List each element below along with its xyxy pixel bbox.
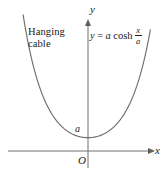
y-axis-arrowhead	[85, 19, 91, 26]
equation-equals-sign: =	[97, 30, 103, 42]
x-axis-arrowhead	[148, 148, 155, 154]
equation-lhs: y	[90, 30, 95, 42]
annotation-line-1: Hanging	[28, 26, 65, 38]
catenary-figure: Hanging cable y = a cosh x a y x O a	[0, 0, 168, 176]
annotation-line-2: cable	[28, 38, 65, 50]
equation-function-name: cosh	[113, 30, 132, 42]
fraction-denominator: a	[135, 37, 141, 46]
equation-annotation: y = a cosh x a	[90, 26, 142, 46]
origin-label: O	[78, 154, 86, 166]
equation-fraction: x a	[135, 26, 142, 46]
y-intercept-label: a	[75, 123, 80, 134]
hanging-cable-annotation: Hanging cable	[28, 26, 65, 50]
x-axis-label: x	[155, 144, 160, 156]
y-axis-label: y	[90, 3, 95, 15]
figure-canvas	[0, 0, 168, 176]
equation-coefficient: a	[106, 30, 111, 42]
fraction-numerator: x	[135, 26, 141, 35]
